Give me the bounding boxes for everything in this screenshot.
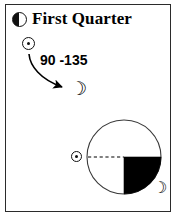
crescent-moon-icon-upper: ☽ [70,79,87,98]
moon-phase-card: First Quarter 90 -135 ☽ ☽ [0,0,178,219]
sun-icon-lower [71,151,82,162]
crescent-moon-icon-lower: ☽ [153,180,167,196]
curved-arrow-icon [29,54,62,87]
upper-diagram-svg [0,0,178,219]
